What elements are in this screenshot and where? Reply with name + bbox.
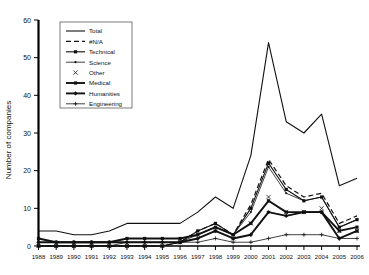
legend-label: Technical (89, 48, 115, 55)
data-point (125, 240, 129, 244)
data-point (161, 237, 164, 240)
data-point (338, 226, 340, 228)
data-point (143, 240, 147, 244)
data-point (74, 81, 77, 84)
data-point (214, 226, 217, 229)
legend-label: Medical (89, 79, 110, 86)
x-tick-label: 1988 (32, 253, 46, 260)
y-tick-label: 30 (23, 130, 31, 137)
x-tick-label: 1989 (49, 253, 63, 260)
legend-label: Other (89, 69, 104, 76)
data-point (249, 222, 252, 225)
x-tick-label: 1990 (67, 253, 81, 260)
data-point (196, 229, 199, 232)
x-tick-label: 1993 (120, 253, 134, 260)
data-point (250, 211, 252, 213)
x-tick-label: 2002 (279, 253, 293, 260)
data-point (356, 219, 358, 221)
x-tick-label: 1995 (156, 253, 170, 260)
data-point (284, 233, 288, 237)
x-tick-label: 2000 (244, 253, 258, 260)
data-point (285, 188, 288, 191)
legend-label: Humanities (89, 90, 120, 97)
data-point (178, 237, 181, 240)
data-point (249, 240, 253, 244)
data-point (285, 211, 288, 214)
x-tick-label: 2005 (333, 253, 347, 260)
x-tick-label: 2003 (297, 253, 311, 260)
data-point (143, 237, 146, 240)
series-na (39, 159, 358, 246)
data-point (355, 236, 359, 240)
y-axis-title-text: Number of companies (4, 101, 13, 179)
data-point (303, 200, 305, 202)
data-point (321, 196, 323, 198)
chart-container: Number of companies 0102030405060 198819… (0, 0, 369, 275)
data-point (338, 229, 341, 232)
data-point (355, 226, 358, 229)
x-tick-label: 1994 (138, 253, 152, 260)
data-point (284, 214, 288, 218)
series-line (39, 159, 358, 246)
data-point (267, 236, 271, 240)
x-tick-label: 2001 (262, 253, 276, 260)
legend-label: Total (89, 27, 102, 34)
data-point (37, 237, 40, 240)
data-point (214, 222, 217, 225)
data-point (267, 166, 269, 168)
data-point (160, 240, 164, 244)
y-tick-label: 40 (23, 92, 31, 99)
series-humanities (36, 210, 359, 245)
x-tick-label: 1997 (191, 253, 205, 260)
x-tick-label: 1999 (226, 253, 240, 260)
y-tick-label: 60 (23, 17, 31, 24)
data-point (232, 233, 235, 236)
line-chart: Number of companies 0102030405060 198819… (0, 0, 369, 275)
y-tick-label: 50 (23, 54, 31, 61)
x-tick-label: 1998 (209, 253, 223, 260)
data-point (196, 240, 200, 244)
data-point (231, 240, 235, 244)
x-tick-label: 2006 (350, 253, 364, 260)
y-axis-ticks: 0102030405060 (23, 17, 38, 250)
data-point (36, 240, 40, 244)
x-tick-label: 1991 (85, 253, 99, 260)
data-point (196, 233, 199, 236)
data-point (74, 50, 77, 53)
chart-legend: Total#N/ATechnicalScienceOtherMedicalHum… (60, 22, 132, 108)
data-point (320, 233, 324, 237)
x-tick-label: 1996 (173, 253, 187, 260)
legend-label: Science (89, 59, 112, 66)
data-point (267, 162, 270, 165)
data-point (302, 233, 306, 237)
y-tick-label: 20 (23, 167, 31, 174)
data-point (320, 206, 324, 210)
x-tick-label: 2004 (315, 253, 329, 260)
y-tick-label: 0 (27, 243, 31, 250)
legend-label: #N/A (89, 38, 104, 45)
x-tick-label: 1992 (102, 253, 116, 260)
y-axis-title: Number of companies (4, 101, 13, 179)
legend-label: Engineering (89, 100, 123, 107)
data-point (266, 195, 270, 199)
y-tick-label: 10 (23, 205, 31, 212)
data-point (74, 61, 76, 63)
data-point (267, 199, 270, 202)
x-axis-ticks: 1988198919901991199219931994199519961997… (32, 246, 365, 260)
data-point (213, 236, 217, 240)
data-point (125, 237, 128, 240)
data-point (285, 192, 287, 194)
